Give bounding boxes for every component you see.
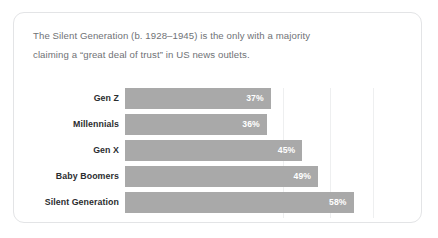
- bar-track: 37%: [125, 88, 422, 109]
- bar: 36%: [125, 114, 267, 135]
- bar-value-label: 45%: [278, 140, 296, 161]
- headline-line-1: The Silent Generation (b. 1928–1945) is …: [33, 26, 393, 45]
- bar-category-label: Gen Z: [14, 88, 119, 109]
- bar-track: 49%: [125, 166, 422, 187]
- bar-category-label: Baby Boomers: [14, 166, 119, 187]
- bar-value-label: 37%: [246, 88, 264, 109]
- bar-category-label: Gen X: [14, 140, 119, 161]
- bar-row: Gen X45%: [14, 140, 422, 161]
- bar-value-label: 36%: [242, 114, 260, 135]
- bar-value-label: 49%: [293, 166, 311, 187]
- bar: 49%: [125, 166, 318, 187]
- bar-value-label: 58%: [329, 192, 347, 213]
- bar-row: Silent Generation58%: [14, 192, 422, 213]
- bar-chart: Gen Z37%Millennials36%Gen X45%Baby Boome…: [14, 88, 422, 218]
- bar-track: 58%: [125, 192, 422, 213]
- bar-row: Millennials36%: [14, 114, 422, 135]
- bar-track: 36%: [125, 114, 422, 135]
- bar-row: Gen Z37%: [14, 88, 422, 109]
- headline-line-2: claiming a “great deal of trust” in US n…: [33, 45, 393, 64]
- bar: 58%: [125, 192, 354, 213]
- bar-row: Baby Boomers49%: [14, 166, 422, 187]
- bar-category-label: Silent Generation: [14, 192, 119, 213]
- bar: 45%: [125, 140, 302, 161]
- bar-track: 45%: [125, 140, 422, 161]
- bar-category-label: Millennials: [14, 114, 119, 135]
- chart-card: The Silent Generation (b. 1928–1945) is …: [13, 12, 422, 223]
- bar: 37%: [125, 88, 271, 109]
- chart-headline: The Silent Generation (b. 1928–1945) is …: [33, 26, 393, 64]
- bar-rows: Gen Z37%Millennials36%Gen X45%Baby Boome…: [14, 88, 422, 213]
